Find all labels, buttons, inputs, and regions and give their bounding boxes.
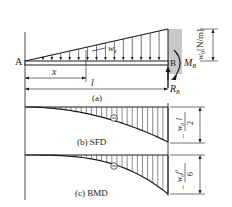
load-arrow-head xyxy=(59,57,62,61)
caption-bmd: (c) BMD xyxy=(75,188,108,198)
load-arrow-head xyxy=(131,57,134,61)
support-b-label: B xyxy=(170,58,176,68)
cantilever-beam-diagram: A B wx MB RB w0[N/m] x l (a) (b) SFD − w… xyxy=(0,0,232,207)
bmd-dim-arrow-top xyxy=(199,155,202,159)
w0-dim-arrow-bottom xyxy=(212,57,215,61)
wx-label: wx xyxy=(108,43,117,54)
w0-label: w0[N/m] xyxy=(195,29,206,60)
reaction-label: RB xyxy=(169,83,180,95)
load-arrow-head xyxy=(122,57,125,61)
caption-a: (a) xyxy=(92,93,102,103)
load-arrow-head xyxy=(158,57,161,61)
bmd-dim-arrow-bottom xyxy=(199,190,202,194)
bmd-numerator: w0l2 xyxy=(174,169,185,182)
sfd-dim-arrow-top xyxy=(199,107,202,111)
load-arrow-head xyxy=(95,57,98,61)
bmd-hatching xyxy=(76,155,163,190)
x-dim-arrow-left xyxy=(25,77,29,80)
sfd-dim-arrow-bottom xyxy=(199,139,202,143)
sfd-max-value: − w0l 2 xyxy=(175,112,195,139)
bmd-sign: − xyxy=(178,185,188,190)
load-arrow-head xyxy=(51,57,54,61)
sfd-denominator: 2 xyxy=(186,121,195,125)
l-dim-label: l xyxy=(91,77,94,88)
load-arrow-head xyxy=(113,57,116,61)
support-a-label: A xyxy=(15,56,23,67)
moment-arrowhead xyxy=(171,74,177,80)
caption-sfd: (b) SFD xyxy=(77,137,107,147)
load-arrow-head xyxy=(104,57,107,61)
wx-pointer xyxy=(92,48,105,51)
load-arrow-head xyxy=(42,57,45,61)
load-arrow-head xyxy=(68,57,71,61)
sfd-hatching xyxy=(56,107,163,140)
bmd-max-value: − w0l2 6 xyxy=(174,163,195,190)
sfd-numerator: w0l xyxy=(175,117,185,131)
load-arrow-head xyxy=(149,57,152,61)
l-dim-arrow-left xyxy=(25,88,29,91)
load-arrow-head xyxy=(77,57,80,61)
x-dim-label: x xyxy=(51,66,57,77)
load-arrows xyxy=(42,31,161,61)
load-arrow-head xyxy=(140,57,143,61)
w0-dim-arrow-top xyxy=(212,29,215,33)
bmd-denominator: 6 xyxy=(186,172,195,176)
load-arrow-head xyxy=(86,57,89,61)
x-dim-arrow-right xyxy=(82,77,86,80)
sfd-sign: − xyxy=(178,134,188,139)
beam xyxy=(25,61,168,65)
